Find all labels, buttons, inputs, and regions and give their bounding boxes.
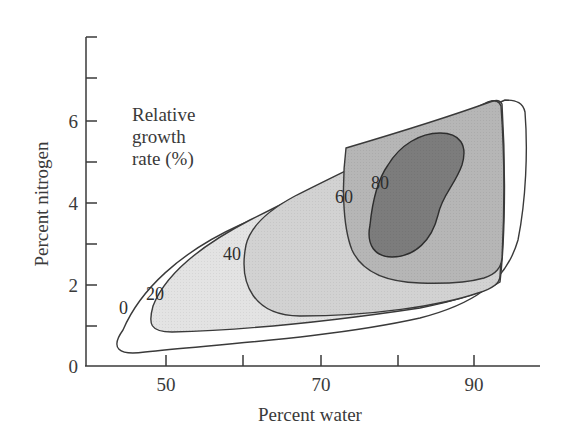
contour-label-80: 80 xyxy=(371,174,389,192)
annotation-line-2: growth xyxy=(132,126,195,148)
y-axis xyxy=(86,37,97,366)
contour-label-0: 0 xyxy=(119,299,128,317)
annotation-line-1: Relative xyxy=(132,104,195,126)
y-axis-title: Percent nitrogen xyxy=(31,104,53,304)
x-tick-label-90: 90 xyxy=(454,375,494,394)
y-tick-label-0: 0 xyxy=(58,357,78,376)
y-tick-label-2: 2 xyxy=(58,276,78,295)
x-axis xyxy=(85,355,540,366)
contour-label-40: 40 xyxy=(223,245,241,263)
x-tick-label-70: 70 xyxy=(301,375,341,394)
y-tick-label-4: 4 xyxy=(58,194,78,213)
x-tick-label-50: 50 xyxy=(146,375,186,394)
growth-rate-annotation: Relative growth rate (%) xyxy=(132,104,195,170)
annotation-line-3: rate (%) xyxy=(132,148,195,170)
contour-label-60: 60 xyxy=(335,188,353,206)
y-tick-label-6: 6 xyxy=(58,112,78,131)
x-axis-title: Percent water xyxy=(258,405,362,424)
contour-label-20: 20 xyxy=(146,285,164,303)
